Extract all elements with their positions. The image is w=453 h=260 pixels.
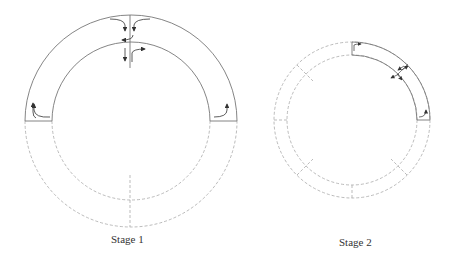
stage-1-label: Stage 1 — [111, 233, 144, 245]
stage-1-ring — [25, 15, 237, 227]
stage-2-ring — [274, 42, 430, 198]
stage-1-left-arrow — [34, 104, 50, 117]
diagram-canvas — [0, 0, 453, 260]
stage-2-label: Stage 2 — [339, 236, 372, 248]
